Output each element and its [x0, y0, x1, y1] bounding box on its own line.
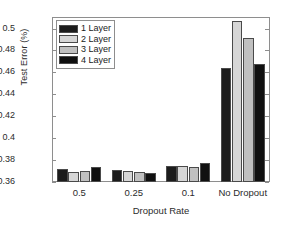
y-tick-mark [265, 116, 269, 117]
y-tick-label: 0.46 [0, 66, 15, 76]
legend-swatch-icon [59, 56, 78, 64]
x-tick-label: No Dropout [218, 187, 267, 198]
bar [80, 171, 91, 182]
x-axis-label: Dropout Rate [52, 205, 270, 216]
legend-swatch-icon [59, 25, 78, 33]
legend-label: 4 Layer [81, 56, 111, 65]
y-tick-mark [52, 182, 56, 183]
legend-label: 1 Layer [81, 24, 111, 33]
legend-label: 3 Layer [81, 45, 111, 54]
bar [112, 170, 123, 182]
bar [68, 172, 79, 182]
bar [166, 166, 177, 182]
legend-item: 1 Layer [59, 24, 111, 34]
bar [243, 38, 254, 182]
legend-swatch-icon [59, 46, 78, 54]
bar [221, 68, 232, 182]
y-tick-label: 0.42 [0, 110, 15, 120]
y-tick-label: 0.4 [0, 132, 15, 142]
y-tick-mark [265, 182, 269, 183]
bar [189, 167, 200, 182]
bar [134, 172, 145, 182]
y-tick-label: 0.5 [0, 23, 15, 33]
bar [145, 173, 156, 182]
y-tick-label: 0.38 [0, 154, 15, 164]
bar [177, 166, 188, 182]
legend-swatch-icon [59, 35, 78, 43]
y-tick-mark [52, 72, 56, 73]
y-tick-mark [265, 29, 269, 30]
bar [232, 21, 243, 182]
x-tick-label: 0.5 [73, 187, 86, 198]
y-tick-mark [265, 160, 269, 161]
bar [91, 167, 102, 182]
y-tick-label: 0.44 [0, 88, 15, 98]
bar [200, 163, 211, 182]
bar [57, 169, 68, 182]
y-tick-mark [265, 94, 269, 95]
y-tick-mark [52, 116, 56, 117]
y-tick-mark [265, 138, 269, 139]
legend-item: 3 Layer [59, 45, 111, 55]
y-tick-label: 0.36 [0, 176, 15, 186]
y-tick-mark [265, 50, 269, 51]
legend-item: 4 Layer [59, 55, 111, 65]
bar [254, 64, 265, 182]
legend-label: 2 Layer [81, 35, 111, 44]
y-tick-mark [52, 94, 56, 95]
y-tick-mark [265, 72, 269, 73]
y-axis-label: Test Error (%) [19, 0, 29, 132]
x-tick-label: 0.25 [125, 187, 144, 198]
chart-legend: 1 Layer2 Layer3 Layer4 Layer [56, 20, 115, 69]
y-tick-label: 0.48 [0, 44, 15, 54]
legend-item: 2 Layer [59, 34, 111, 44]
x-tick-label: 0.1 [182, 187, 195, 198]
y-tick-mark [52, 138, 56, 139]
y-tick-mark [52, 160, 56, 161]
bar-chart-figure: Test Error (%) 0.360.380.40.420.440.460.… [0, 0, 289, 228]
bar [123, 171, 134, 182]
